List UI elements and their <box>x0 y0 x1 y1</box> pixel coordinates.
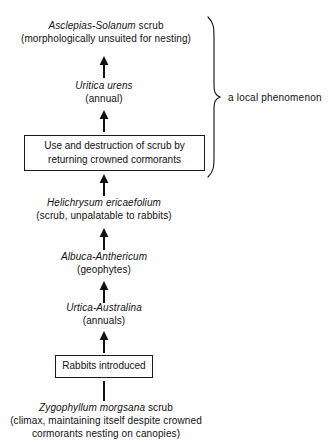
node-line: (climax, maintaining itself despite crow… <box>0 415 212 428</box>
arrow-to-urtica-australina-icon <box>94 331 114 353</box>
node-use-destruction-scrub-box: Use and destruction of scrub by returnin… <box>24 135 205 171</box>
node-qualifier: (annual) <box>24 93 184 106</box>
node-asclepias-solanum: Asclepias-Solanum scrub (morphologically… <box>0 20 212 46</box>
node-line: cormorants nesting on canopies) <box>0 428 212 441</box>
node-uritica-urens: Uritica urens (annual) <box>24 80 184 106</box>
node-line: (morphologically unsuited for nesting) <box>0 33 212 46</box>
node-qualifier: (scrub, unpalatable to rabbits) <box>14 210 194 223</box>
local-phenomenon-label: a local phenomenon <box>228 92 322 103</box>
species-name: Albuca-Anthericum <box>24 251 184 264</box>
node-line: Rabbits introduced <box>62 359 145 374</box>
local-phenomenon-brace-icon <box>206 16 222 178</box>
node-qualifier: scrub <box>136 20 164 31</box>
arrow-to-use-destruction-icon <box>94 174 114 196</box>
species-name: Helichrysum ericaefolium <box>14 197 194 210</box>
diagram-canvas: Asclepias-Solanum scrub (morphologically… <box>0 0 331 444</box>
arrow-to-helichrysum-icon <box>94 228 114 250</box>
node-line: Use and destruction of scrub by <box>44 139 185 154</box>
node-helichrysum-ericaefolium: Helichrysum ericaefolium (scrub, unpalat… <box>14 197 194 223</box>
line-rabbits-to-zygophyllum <box>94 381 114 401</box>
species-name: Zygophyllum morgsana <box>39 402 145 413</box>
node-zygophyllum-morgsana: Zygophyllum morgsana scrub (climax, main… <box>0 402 212 440</box>
node-line: returning crowned cormorants <box>48 153 181 168</box>
node-urtica-australina: Urtica-Australina (annuals) <box>24 302 184 328</box>
node-qualifier: scrub <box>145 402 173 413</box>
node-albuca-anthericum: Albuca-Anthericum (geophytes) <box>24 251 184 277</box>
node-qualifier: (geophytes) <box>24 264 184 277</box>
node-line: Asclepias-Solanum scrub <box>0 20 212 33</box>
arrow-to-asclepias-icon <box>94 56 114 78</box>
node-line: Zygophyllum morgsana scrub <box>0 402 212 415</box>
species-name: Asclepias-Solanum <box>48 20 135 31</box>
node-qualifier: (annuals) <box>24 315 184 328</box>
arrow-to-uritica-icon <box>94 110 114 132</box>
species-name: Urtica-Australina <box>24 302 184 315</box>
species-name: Uritica urens <box>24 80 184 93</box>
node-rabbits-introduced-box: Rabbits introduced <box>55 355 153 378</box>
arrow-to-albuca-icon <box>94 281 114 303</box>
